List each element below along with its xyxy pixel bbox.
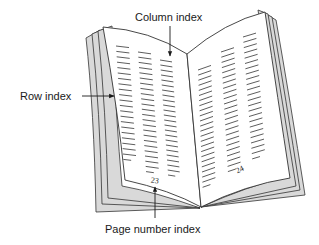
column-index-label: Column index (135, 11, 202, 23)
open-book-diagram: 23 24 (0, 0, 319, 245)
left-page-number: 23 (150, 175, 159, 185)
page-number-index-label: Page number index (105, 223, 200, 235)
row-index-label: Row index (20, 90, 71, 102)
